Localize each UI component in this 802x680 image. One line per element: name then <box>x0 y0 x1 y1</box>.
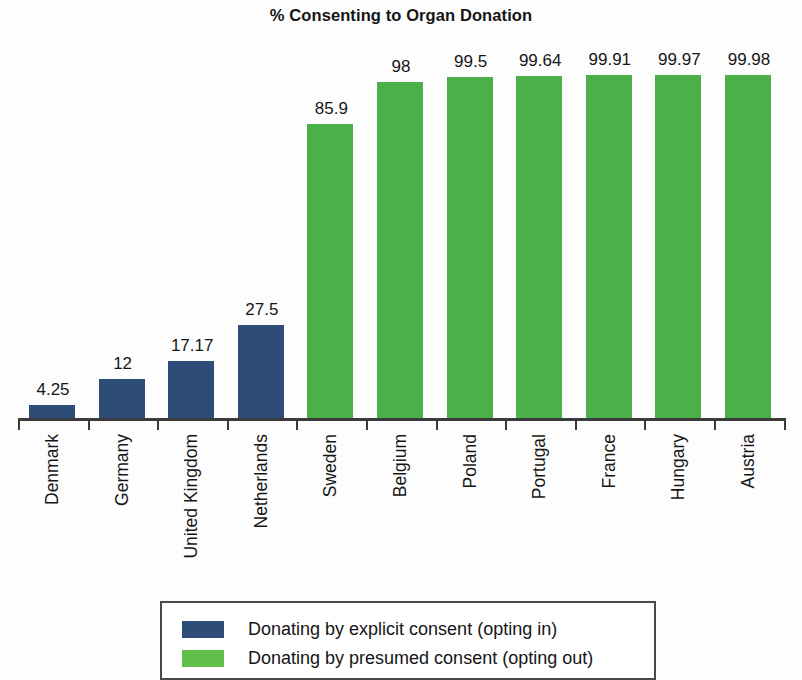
bar-rect <box>447 77 493 420</box>
bar-poland: 99.5 <box>436 36 506 420</box>
bar-value-label: 99.98 <box>714 51 784 68</box>
chart-legend: Donating by explicit consent (opting in)… <box>160 601 656 680</box>
bar-value-label: 85.9 <box>296 100 366 117</box>
category-label-austria: Austria <box>714 434 784 584</box>
bar-value-label: 99.91 <box>575 51 645 68</box>
category-label-netherlands: Netherlands <box>227 434 297 584</box>
category-label-germany: Germany <box>88 434 158 584</box>
axis-tick <box>227 418 229 430</box>
bar-rect <box>725 75 771 420</box>
bar-value-label: 99.64 <box>505 52 575 69</box>
category-label-text: Poland <box>462 434 480 489</box>
axis-tick <box>88 418 90 430</box>
legend-swatch-icon-opt-in <box>182 621 224 638</box>
bar-value-label: 17.17 <box>157 337 227 354</box>
bar-value-label: 98 <box>366 58 436 75</box>
bar-rect <box>516 76 562 420</box>
bar-rect <box>586 75 632 420</box>
category-label-text: Germany <box>114 434 132 506</box>
bar-value-label: 12 <box>88 355 158 372</box>
category-label-text: Sweden <box>323 434 341 497</box>
bar-belgium: 98 <box>366 36 436 420</box>
axis-tick <box>784 418 786 430</box>
category-label-text: France <box>601 434 619 488</box>
bar-value-label: 99.5 <box>436 53 506 70</box>
bar-rect <box>377 82 423 420</box>
bar-value-label: 4.25 <box>18 381 88 398</box>
category-label-text: Portugal <box>531 434 549 499</box>
axis-tick <box>505 418 507 430</box>
category-label-text: United Kingdom <box>183 434 201 559</box>
bar-united-kingdom: 17.17 <box>157 36 227 420</box>
axis-tick <box>296 418 298 430</box>
category-label-belgium: Belgium <box>366 434 436 584</box>
category-label-text: Denmark <box>44 434 62 505</box>
bar-value-label: 27.5 <box>227 301 297 318</box>
category-label-united-kingdom: United Kingdom <box>157 434 227 584</box>
category-label-poland: Poland <box>436 434 506 584</box>
bar-hungary: 99.97 <box>644 36 714 420</box>
chart-container: % Consenting to Organ Donation 4.251217.… <box>0 0 802 680</box>
bar-denmark: 4.25 <box>18 36 88 420</box>
axis-tick <box>366 418 368 430</box>
axis-tick <box>18 418 20 430</box>
axis-tick <box>714 418 716 430</box>
category-label-text: Hungary <box>671 434 689 500</box>
legend-swatch-icon-opt-out <box>182 650 224 667</box>
category-label-text: Netherlands <box>253 434 271 528</box>
bar-austria: 99.98 <box>714 36 784 420</box>
category-label-sweden: Sweden <box>296 434 366 584</box>
category-label-hungary: Hungary <box>644 434 714 584</box>
category-label-france: France <box>575 434 645 584</box>
category-label-text: Belgium <box>392 434 410 497</box>
axis-tick <box>157 418 159 430</box>
category-label-denmark: Denmark <box>18 434 88 584</box>
legend-label-opt-in: Donating by explicit consent (opting in) <box>248 619 557 640</box>
bar-rect <box>655 75 701 420</box>
legend-item-opt-out: Donating by presumed consent (opting out… <box>182 645 593 671</box>
bar-rect <box>238 325 284 420</box>
bar-france: 99.91 <box>575 36 645 420</box>
x-axis-line <box>18 418 784 421</box>
category-label-portugal: Portugal <box>505 434 575 584</box>
axis-tick <box>436 418 438 430</box>
bar-rect <box>168 361 214 420</box>
legend-item-opt-in: Donating by explicit consent (opting in) <box>182 616 557 642</box>
bar-portugal: 99.64 <box>505 36 575 420</box>
category-label-text: Austria <box>740 434 758 488</box>
bar-value-label: 99.97 <box>644 51 714 68</box>
plot-area: 4.251217.1727.585.99899.599.6499.9199.97… <box>0 36 802 420</box>
bar-netherlands: 27.5 <box>227 36 297 420</box>
axis-tick <box>575 418 577 430</box>
bar-sweden: 85.9 <box>296 36 366 420</box>
legend-label-opt-out: Donating by presumed consent (opting out… <box>248 648 593 669</box>
bar-rect <box>307 124 353 420</box>
bar-germany: 12 <box>88 36 158 420</box>
bar-rect <box>99 379 145 420</box>
axis-tick <box>644 418 646 430</box>
chart-title: % Consenting to Organ Donation <box>0 6 802 25</box>
